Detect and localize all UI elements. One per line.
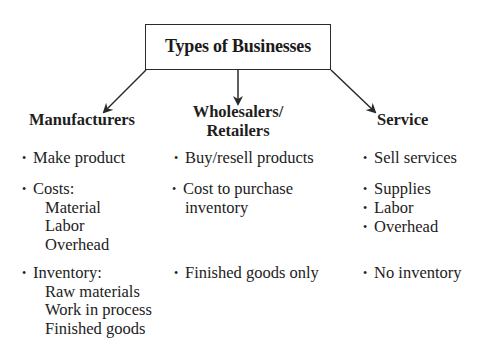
sub-item-text: Raw materials — [33, 283, 152, 302]
heading-service: Service — [377, 110, 428, 129]
list-item: • Costs: Material Labor Overhead — [33, 180, 109, 255]
bullet-icon: • — [363, 149, 367, 168]
bullet-icon: • — [172, 180, 176, 199]
heading-wholesalers-retailers: Wholesalers/ Retailers — [178, 102, 298, 140]
heading-manufacturers-text: Manufacturers — [29, 110, 135, 129]
list-item: • No inventory — [374, 264, 462, 283]
item-text: Finished goods only — [185, 263, 319, 282]
list-item: • Make product — [33, 149, 125, 168]
bullet-icon: • — [363, 180, 367, 199]
item-text: Make product — [33, 148, 125, 167]
list-item: • Supplies — [374, 180, 431, 199]
bullet-icon: • — [174, 264, 178, 283]
bullet-icon: • — [22, 264, 26, 283]
business-types-diagram: Types of Businesses Manufacturers Wholes… — [0, 0, 485, 358]
sub-item-text: Overhead — [33, 236, 109, 255]
list-item: • Buy/resell products — [185, 149, 314, 168]
heading-wholesalers-line2: Retailers — [178, 121, 298, 140]
diagram-title: Types of Businesses — [165, 36, 311, 57]
item-text: Sell services — [374, 148, 457, 167]
bullet-icon: • — [174, 149, 178, 168]
list-item: • Overhead — [374, 218, 438, 237]
heading-wholesalers-line1: Wholesalers/ — [178, 102, 298, 121]
bullet-icon: • — [22, 180, 26, 199]
list-item: • Cost to purchase inventory — [183, 180, 293, 217]
bullet-icon: • — [363, 199, 367, 218]
item-text: No inventory — [374, 263, 462, 282]
sub-item-text: Work in process — [33, 301, 152, 320]
item-text: Supplies — [374, 179, 431, 198]
bullet-icon: • — [22, 149, 26, 168]
list-item: • Labor — [374, 199, 413, 218]
bullet-icon: • — [363, 218, 367, 237]
item-text: Costs: — [33, 179, 74, 198]
list-item: • Sell services — [374, 149, 457, 168]
title-box: Types of Businesses — [145, 24, 331, 70]
list-item: • Inventory: Raw materials Work in proce… — [33, 264, 152, 339]
bullet-icon: • — [363, 264, 367, 283]
sub-item-text: Finished goods — [33, 320, 152, 339]
arrow-to-service — [331, 70, 375, 112]
arrow-to-manufacturers — [104, 70, 146, 112]
item-text: Inventory: — [33, 263, 102, 282]
list-item: • Finished goods only — [185, 264, 319, 283]
sub-item-text: inventory — [183, 199, 293, 218]
item-text: Labor — [374, 198, 413, 217]
sub-item-text: Material — [33, 199, 109, 218]
heading-manufacturers: Manufacturers — [29, 110, 135, 129]
sub-item-text: Labor — [33, 217, 109, 236]
item-text: Buy/resell products — [185, 148, 314, 167]
item-text: Cost to purchase — [183, 179, 293, 198]
heading-service-text: Service — [377, 110, 428, 129]
item-text: Overhead — [374, 217, 438, 236]
